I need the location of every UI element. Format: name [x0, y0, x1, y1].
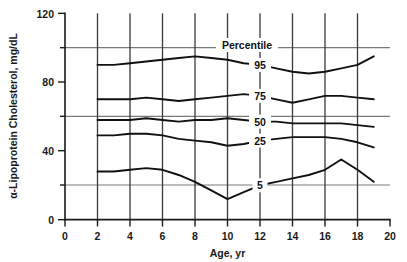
x-tick-label: 2	[95, 230, 101, 242]
y-axis	[58, 13, 65, 219]
legend: Percentile	[216, 38, 278, 52]
x-tick-label: 8	[192, 230, 198, 242]
percentile-label-25: 25	[254, 135, 266, 147]
percentile-label-75: 75	[254, 90, 266, 102]
chart-container: 120 80 40 0 0 2 4 6 8 10 12 14 16 18 20 …	[0, 0, 407, 262]
x-tick-label: 10	[222, 230, 234, 242]
y-axis-title: α-Lipoprotein Cholesterol, mg/dL	[7, 33, 19, 199]
percentile-curve-50	[98, 118, 374, 127]
x-tick-label: 6	[160, 230, 166, 242]
x-tick-label: 4	[127, 230, 133, 242]
x-tick-label: 0	[62, 230, 68, 242]
y-tick-labels: 120 80 40 0	[36, 8, 54, 226]
percentile-label-50: 50	[254, 116, 266, 128]
percentile-curve-5	[98, 159, 374, 199]
percentile-label-95: 95	[254, 59, 266, 71]
x-tick-label: 12	[254, 230, 266, 242]
x-axis	[65, 220, 390, 227]
x-tick-label: 16	[319, 230, 331, 242]
x-tick-label: 20	[384, 230, 396, 242]
y-tick-label: 80	[42, 76, 54, 88]
x-tick-labels: 0 2 4 6 8 10 12 14 16 18 20	[62, 230, 396, 242]
y-tick-label: 40	[42, 145, 54, 157]
x-axis-title: Age, yr	[210, 247, 246, 259]
percentile-curve-95	[98, 56, 374, 73]
percentile-curve-25	[98, 134, 374, 148]
y-tick-label: 0	[48, 214, 54, 226]
line-chart-plot: 120 80 40 0 0 2 4 6 8 10 12 14 16 18 20 …	[0, 0, 407, 262]
percentile-curves	[98, 56, 374, 199]
percentile-label-5: 5	[257, 179, 263, 191]
y-tick-label: 120	[36, 8, 54, 20]
x-tick-label: 18	[352, 230, 364, 242]
x-tick-label: 14	[287, 230, 299, 242]
percentile-curve-75	[98, 94, 374, 103]
legend-title: Percentile	[222, 39, 272, 51]
